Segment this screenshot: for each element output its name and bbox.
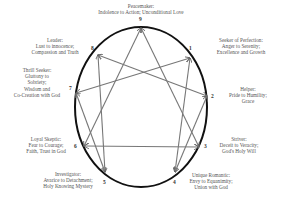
number-1: 1 — [189, 45, 192, 51]
label-type-9: Peacemaker: Indolence to Action; Uncondi… — [80, 3, 202, 15]
number-7: 7 — [69, 85, 72, 91]
label-type-2: Helper: Pride to Humility; Grace — [218, 86, 278, 105]
label-type-8: Leader: Lust to innocence; Compassion an… — [22, 37, 88, 56]
label-type-7: Thrill Seeker: Gluttony to Sobriety; Wis… — [4, 67, 70, 98]
enneagram-circle — [75, 27, 207, 187]
number-2: 2 — [211, 93, 214, 99]
number-9: 9 — [139, 16, 142, 22]
number-5: 5 — [103, 179, 106, 185]
label-type-6: Loyal Skeptic: Fear to Courage; Faith, T… — [12, 136, 80, 155]
number-3: 3 — [204, 143, 207, 149]
label-type-5: Investigator: Avarice to Detachment; Hol… — [32, 171, 104, 190]
label-type-1: Seeker of Perfection: Anger to Serenity;… — [206, 37, 276, 56]
label-type-4: Unique Romantic: Envy to Equanimity; Uni… — [178, 172, 244, 191]
number-8: 8 — [91, 45, 94, 51]
connection-line-8-2 — [98, 55, 207, 96]
number-6: 6 — [74, 143, 77, 149]
connection-line-1-7 — [76, 58, 190, 93]
connection-line-3-6 — [84, 146, 199, 147]
label-type-3: Striver: Deceit to Veracity; God's Holy … — [206, 136, 272, 155]
number-4: 4 — [173, 179, 176, 185]
